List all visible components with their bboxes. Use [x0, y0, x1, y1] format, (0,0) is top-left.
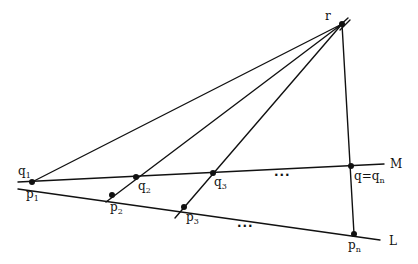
label-p1: p1 — [26, 187, 39, 203]
label-line-m: M — [390, 157, 402, 171]
label-q2: q2 — [138, 179, 151, 195]
label-q1: q1 — [18, 164, 31, 180]
label-q3: q3 — [214, 175, 227, 191]
label-pn: pn — [348, 238, 361, 254]
ray-r-p2 — [106, 24, 342, 202]
point-p2 — [109, 192, 115, 198]
ray-r-p1 — [32, 24, 342, 182]
ellipsis-m: ... — [274, 165, 291, 179]
line-m — [18, 164, 384, 182]
label-r: r — [325, 9, 331, 23]
label-line-l: L — [389, 234, 397, 248]
label-qn: q=qn — [354, 169, 385, 185]
label-p2: p2 — [110, 200, 123, 216]
ellipsis-l: ... — [237, 216, 254, 230]
line-l — [18, 189, 380, 240]
projection-diagram: r q1 p1 q2 q3 q=qn p2 p3 pn M L ... ... — [0, 0, 418, 264]
ray-r-p3 — [175, 24, 342, 218]
label-p3: p3 — [186, 210, 199, 226]
point-r — [339, 21, 345, 27]
ray-r-pn — [342, 24, 354, 234]
point-pn — [351, 231, 357, 237]
